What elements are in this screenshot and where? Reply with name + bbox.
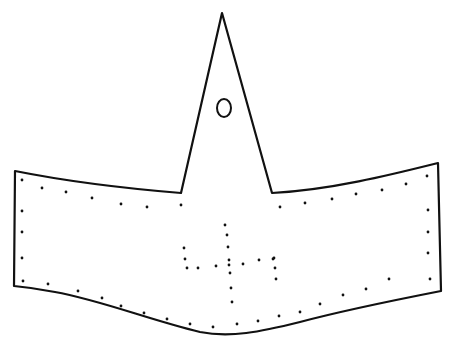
motif-dot	[242, 263, 245, 266]
stitch-dot	[405, 183, 408, 186]
stitch-dot	[143, 312, 146, 315]
stitch-dot	[355, 193, 358, 196]
stitch-dot	[299, 311, 302, 314]
motif-dot	[274, 267, 277, 270]
motif-dot	[228, 264, 231, 267]
stitch-dot	[91, 197, 94, 200]
motif-dot	[227, 246, 230, 249]
motif-dot	[226, 234, 229, 237]
stitch-dot	[388, 278, 391, 281]
stitch-dot	[319, 303, 322, 306]
stitch-dot	[381, 189, 384, 192]
stitch-dot	[426, 175, 429, 178]
motif-dot	[186, 267, 189, 270]
stitch-dot	[77, 290, 80, 293]
stitch-dot	[429, 278, 432, 281]
stitch-dot	[21, 231, 24, 234]
motif-dot	[258, 259, 261, 262]
motif-dot	[275, 278, 278, 281]
stitch-dot	[212, 326, 215, 329]
stitch-dot	[331, 198, 334, 201]
motif-dot	[272, 258, 275, 261]
cross-motif	[183, 224, 278, 304]
motif-dot	[230, 287, 233, 290]
stitch-dot	[189, 323, 192, 326]
stitch-dot	[257, 320, 260, 323]
stitch-dot	[278, 315, 281, 318]
motif-dot	[229, 272, 232, 275]
stitch-dot	[166, 318, 169, 321]
motif-dot	[231, 301, 234, 304]
stitch-dot	[65, 191, 68, 194]
stitch-dot	[47, 283, 50, 286]
stitch-dot	[21, 179, 24, 182]
stitch-dot	[236, 323, 239, 326]
stitch-dot	[120, 305, 123, 308]
stitch-dot	[427, 231, 430, 234]
stitch-dot	[21, 257, 24, 260]
motif-dot	[183, 247, 186, 250]
stitch-dot	[342, 294, 345, 297]
stitch-dot	[365, 288, 368, 291]
punch-hole-icon	[217, 99, 231, 117]
pattern-diagram	[0, 0, 457, 346]
stitch-dot	[146, 206, 149, 209]
stitch-dot	[21, 210, 24, 213]
motif-dot	[228, 259, 231, 262]
stitch-dot	[304, 202, 307, 205]
pattern-outline	[14, 13, 441, 334]
stitch-dot	[41, 187, 44, 190]
stitch-dot	[279, 206, 282, 209]
stitch-dot	[427, 252, 430, 255]
stitch-dot	[22, 280, 25, 283]
motif-dot	[224, 224, 227, 227]
motif-dot	[184, 258, 187, 261]
stitch-dot	[101, 297, 104, 300]
stitch-dot	[120, 203, 123, 206]
motif-dot	[215, 265, 218, 268]
stitch-dot	[180, 204, 183, 207]
motif-dot	[197, 267, 200, 270]
stitch-dot	[427, 209, 430, 212]
